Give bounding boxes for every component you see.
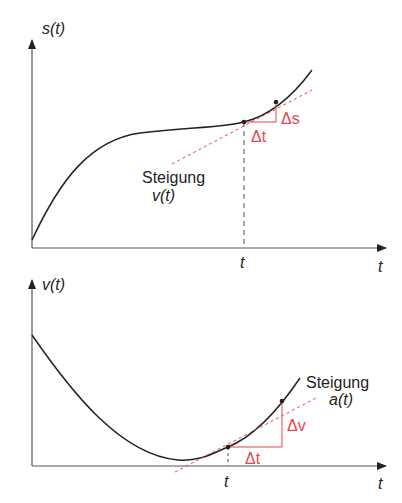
top-point-2	[274, 100, 279, 105]
bottom-slope-label-2: a(t)	[329, 391, 353, 408]
bottom-y-label: v(t)	[42, 276, 65, 293]
top-point-1	[242, 120, 247, 125]
top-delta-t: Δt	[251, 128, 267, 145]
velocity-curve	[32, 335, 300, 460]
bottom-graph: v(t) t t Steigung a(t) Δt Δv	[32, 276, 386, 492]
top-slope-triangle	[244, 103, 276, 122]
bottom-delta-t: Δt	[245, 450, 261, 467]
top-tick-label: t	[240, 254, 245, 271]
bottom-slope-label-1: Steigung	[306, 374, 369, 391]
top-y-label: s(t)	[42, 20, 65, 37]
top-tangent-line	[172, 90, 312, 164]
bottom-delta-v: Δv	[287, 417, 306, 434]
bottom-point-2	[280, 399, 285, 404]
bottom-x-label: t	[378, 475, 383, 492]
top-x-label: t	[378, 258, 383, 275]
bottom-point-1	[226, 445, 231, 450]
top-slope-label-2: v(t)	[152, 187, 175, 204]
diagram: s(t) t t Steigung v(t) Δt Δs v(t) t t St…	[0, 0, 402, 503]
bottom-tick-label: t	[224, 473, 229, 490]
position-curve	[32, 70, 312, 240]
top-graph: s(t) t t Steigung v(t) Δt Δs	[32, 20, 386, 275]
top-delta-s: Δs	[281, 110, 300, 127]
top-slope-label-1: Steigung	[142, 169, 205, 186]
